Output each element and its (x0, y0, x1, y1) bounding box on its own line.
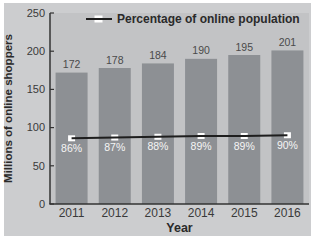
x-axis-tick-label: 2015 (231, 206, 258, 220)
bar-value-label: 190 (192, 44, 210, 56)
y-axis-tick-label: 200 (27, 45, 45, 57)
percentage-label: 89% (234, 140, 255, 152)
percentage-label: 88% (147, 140, 168, 152)
y-axis-tick-label: 250 (27, 7, 45, 19)
bar-2013 (142, 63, 174, 204)
bar-line-chart: 1721781841901952010501001502002502011201… (0, 0, 315, 243)
y-axis-tick-label: 100 (27, 121, 45, 133)
bar-2016 (271, 50, 303, 204)
percentage-label: 87% (104, 141, 125, 153)
x-axis-tick-label: 2012 (101, 206, 128, 220)
bar-value-label: 178 (106, 54, 124, 66)
percentage-label: 90% (277, 139, 298, 151)
bar-2014 (185, 59, 217, 204)
y-axis-title: Millions of online shoppers (2, 34, 14, 183)
x-axis-tick-label: 2014 (188, 206, 215, 220)
y-axis-tick-label: 0 (39, 198, 45, 210)
plot-area (50, 13, 309, 204)
x-axis-tick-label: 2011 (59, 206, 85, 220)
bar-value-label: 184 (149, 49, 167, 61)
percentage-label: 89% (191, 140, 212, 152)
bar-2015 (228, 55, 260, 204)
x-axis-tick-label: 2013 (145, 206, 172, 220)
bar-value-label: 201 (279, 36, 297, 48)
x-axis-tick-label: 2016 (274, 206, 301, 220)
bar-value-label: 195 (235, 41, 253, 53)
bar-value-label: 172 (63, 58, 81, 70)
y-axis-tick-label: 150 (27, 83, 45, 95)
percentage-label: 86% (61, 142, 82, 154)
x-axis-title: Year (166, 221, 193, 235)
legend-label: Percentage of online population (117, 12, 300, 26)
chart-figure: 1721781841901952010501001502002502011201… (0, 0, 315, 243)
y-axis-tick-label: 50 (33, 160, 45, 172)
